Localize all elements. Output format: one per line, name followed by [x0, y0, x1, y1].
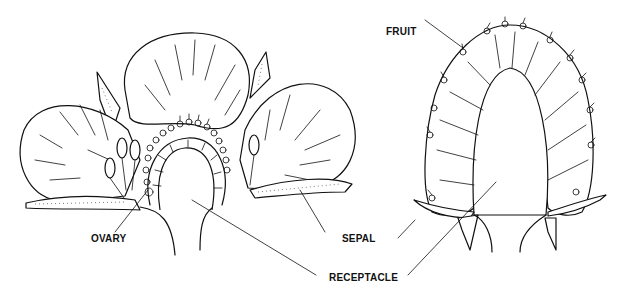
- flower-section-drawing: [20, 33, 355, 275]
- receptacle-leader-left: [192, 200, 316, 275]
- fruit-sepal-lower-left: [458, 215, 478, 250]
- fruit-section-drawing: [398, 17, 606, 275]
- stem-right: [200, 208, 212, 250]
- fruit-leader: [425, 20, 463, 48]
- fruit-stem-right: [520, 215, 546, 252]
- stem-left: [140, 207, 175, 255]
- fruit-label: FRUIT: [386, 26, 416, 37]
- sepal-back-right: [250, 52, 270, 98]
- sepal-leader: [300, 190, 325, 232]
- sepal-label: SEPAL: [342, 233, 376, 244]
- sepal-leader-right: [398, 220, 415, 238]
- diagram-canvas: FRUIT OVARY SEPAL RECEPTACLE: [0, 0, 621, 303]
- fruit-sepal-lower-right: [545, 218, 556, 250]
- strawberry-illustration: [0, 0, 621, 303]
- ovary-label: OVARY: [91, 233, 126, 244]
- receptacle-label: RECEPTACLE: [329, 272, 398, 283]
- receptacle-dome: [158, 148, 213, 210]
- petal-center: [124, 33, 249, 129]
